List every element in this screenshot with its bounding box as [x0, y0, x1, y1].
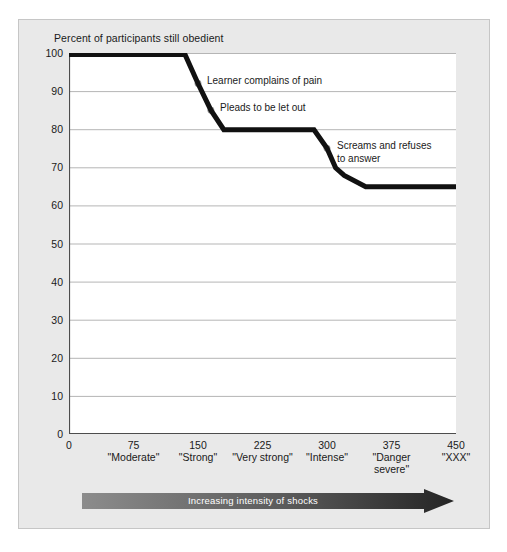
- x-axis-tick-300: 300 "Intense": [292, 439, 362, 463]
- x-axis-tick-category: "Strong": [163, 451, 233, 463]
- page-title: Percent of participants still obedient: [54, 32, 224, 44]
- x-axis-tick-category: "Danger severe": [357, 451, 427, 475]
- annotation-screams: Screams and refuses to answer: [337, 140, 432, 165]
- x-axis-tick-category: "Moderate": [99, 451, 169, 463]
- y-axis-tick-60: 60: [29, 199, 63, 211]
- y-axis-tick-30: 30: [29, 314, 63, 326]
- x-axis-tick-value: 225: [228, 439, 298, 451]
- x-axis-tick-0: 0: [34, 439, 104, 451]
- plot-area: Learner complains of pain Pleads to be l…: [69, 53, 456, 434]
- intensity-arrow: Increasing intensity of shocks: [82, 489, 454, 513]
- y-axis-tick-70: 70: [29, 161, 63, 173]
- x-axis-tick-category: "XXX": [421, 451, 491, 463]
- x-axis-tick-category: "Intense": [292, 451, 362, 463]
- x-axis-tick-value: 450: [421, 439, 491, 451]
- annotation-learner-complains: Learner complains of pain: [207, 75, 322, 88]
- x-axis-tick-value: 0: [34, 439, 104, 451]
- x-axis-tick-category: "Very strong": [228, 451, 298, 463]
- y-axis-tick-20: 20: [29, 352, 63, 364]
- x-axis-tick-150: 150 "Strong": [163, 439, 233, 463]
- x-axis-tick-450: 450 "XXX": [421, 439, 491, 463]
- y-axis-tick-80: 80: [29, 123, 63, 135]
- x-axis-tick-value: 75: [99, 439, 169, 451]
- x-axis-tick-value: 300: [292, 439, 362, 451]
- x-axis-tick-375: 375 "Danger severe": [357, 439, 427, 475]
- y-axis-tick-90: 90: [29, 85, 63, 97]
- x-axis-tick-75: 75 "Moderate": [99, 439, 169, 463]
- annotation-pleads: Pleads to be let out: [220, 102, 306, 115]
- x-axis-tick-value: 375: [357, 439, 427, 451]
- y-axis-tick-50: 50: [29, 238, 63, 250]
- x-axis-tick-225: 225 "Very strong": [228, 439, 298, 463]
- arrow-icon: [82, 489, 454, 513]
- figure-panel: Percent of participants still obedient 1…: [18, 19, 490, 529]
- y-axis-tick-100: 100: [29, 47, 63, 59]
- y-axis-tick-40: 40: [29, 276, 63, 288]
- x-axis-tick-value: 150: [163, 439, 233, 451]
- y-axis-tick-10: 10: [29, 390, 63, 402]
